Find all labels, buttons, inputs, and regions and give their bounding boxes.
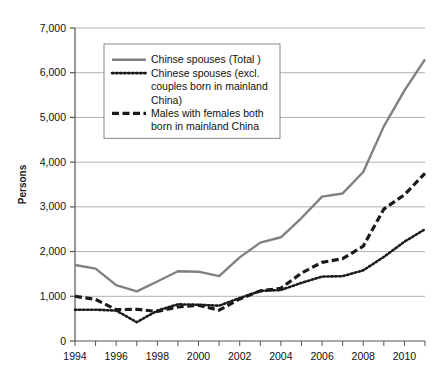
y-tick-label: 5,000: [40, 111, 66, 123]
x-tick-label: 2010: [393, 350, 417, 362]
legend-label-1: Chinse spouses (Total ): [151, 53, 261, 65]
y-tick-label: 6,000: [40, 66, 66, 78]
y-tick-label: 2,000: [40, 245, 66, 257]
legend-label-2: China): [151, 94, 182, 106]
x-tick-label: 1996: [104, 350, 128, 362]
x-tick-label: 2004: [269, 350, 293, 362]
y-tick-label: 4,000: [40, 156, 66, 168]
y-tick-label: 0: [60, 335, 66, 347]
y-axis-ticks: 01,0002,0003,0004,0005,0006,0007,000: [40, 22, 75, 347]
series-line-3: [75, 173, 425, 311]
x-tick-label: 2002: [228, 350, 252, 362]
legend-label-3: born in mainland China: [151, 120, 259, 132]
y-tick-label: 7,000: [40, 22, 66, 34]
x-axis-ticks: 199419961998200020022004200620082010: [63, 341, 425, 362]
legend-label-3: Males with females both: [151, 107, 264, 119]
x-tick-label: 2006: [310, 350, 334, 362]
x-tick-label: 2008: [352, 350, 376, 362]
x-tick-label: 1998: [146, 350, 170, 362]
legend-label-2: Chinese spouses (excl.: [151, 67, 260, 79]
x-tick-label: 2000: [187, 350, 211, 362]
y-axis-title: Persons: [17, 164, 28, 204]
legend: Chinse spouses (Total )Chinese spouses (…: [104, 44, 280, 138]
line-chart: 01,0002,0003,0004,0005,0006,0007,0001994…: [0, 0, 441, 390]
chart-container: 01,0002,0003,0004,0005,0006,0007,0001994…: [0, 0, 441, 390]
y-tick-label: 3,000: [40, 200, 66, 212]
legend-label-2: couples born in mainland: [151, 80, 268, 92]
y-tick-label: 1,000: [40, 290, 66, 302]
x-tick-label: 1994: [63, 350, 87, 362]
